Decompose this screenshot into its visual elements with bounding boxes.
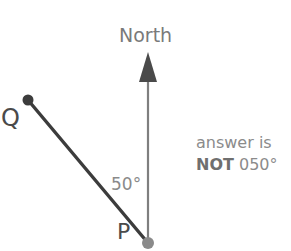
point-q-label: Q	[1, 106, 20, 130]
point-p-label: P	[117, 221, 130, 243]
annotation-line-1: answer is	[196, 132, 288, 154]
point-q-dot	[23, 95, 34, 106]
annotation-line-2: NOT 050°	[196, 154, 288, 176]
annotation-note: answer is NOT 050°	[196, 132, 288, 176]
annotation-not-word: NOT	[196, 155, 234, 174]
annotation-bearing-value: 050°	[234, 155, 278, 174]
bearing-diagram: North 50° Q P answer is NOT 050°	[0, 0, 291, 251]
north-label: North	[119, 26, 172, 45]
angle-label: 50°	[111, 176, 141, 193]
point-p-dot	[142, 237, 154, 249]
north-arrowhead-icon	[139, 52, 157, 82]
